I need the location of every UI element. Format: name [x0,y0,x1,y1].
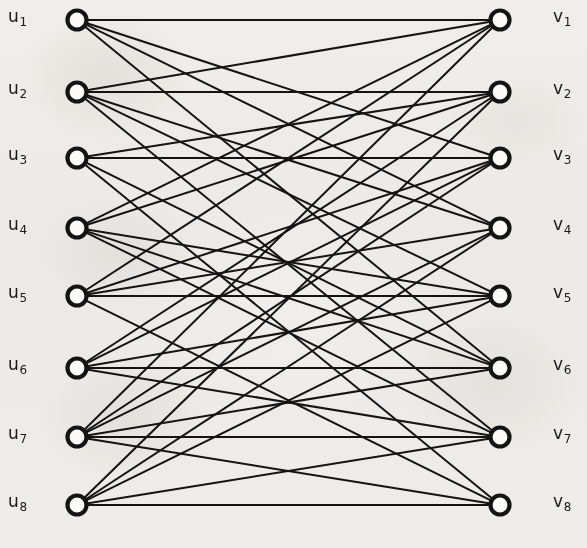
node-label-v5: v5 [553,284,572,304]
node-label-index: 2 [19,87,27,101]
node-label-u3: u3 [8,146,27,166]
node-label-index: 1 [19,15,27,29]
node-label-letter: u [8,214,19,234]
node-label-letter: v [553,423,563,443]
node-label-index: 4 [19,223,27,237]
graph-edge [87,98,491,362]
node-label-letter: v [553,214,563,234]
node-label-v4: v4 [553,216,572,236]
node-label-letter: u [8,282,19,302]
node-label-letter: v [553,144,563,164]
node-label-index: 5 [563,291,571,305]
node-label-letter: u [8,78,19,98]
graph-node-u1[interactable] [68,11,87,30]
node-label-index: 8 [563,500,571,514]
node-label-v8: v8 [553,493,572,513]
node-label-index: 4 [563,223,571,237]
graph-node-u2[interactable] [68,83,87,102]
node-label-v1: v1 [553,8,572,28]
node-label-letter: v [553,282,563,302]
graph-node-v8[interactable] [491,496,510,515]
node-label-u4: u4 [8,216,27,236]
node-label-u8: u8 [8,493,27,513]
node-label-v7: v7 [553,425,572,445]
edge-layer [85,20,492,505]
node-label-letter: v [553,491,563,511]
graph-node-u5[interactable] [68,287,87,306]
node-label-index: 5 [19,291,27,305]
node-label-letter: u [8,491,19,511]
graph-node-v4[interactable] [491,219,510,238]
node-label-index: 6 [563,363,571,377]
node-label-index: 6 [19,363,27,377]
node-label-letter: u [8,354,19,374]
node-label-letter: u [8,6,19,26]
node-label-index: 3 [563,153,571,167]
bipartite-graph [0,0,587,548]
graph-node-v1[interactable] [491,11,510,30]
graph-edge [88,162,489,293]
node-label-letter: u [8,144,19,164]
graph-node-u6[interactable] [68,359,87,378]
graph-node-u8[interactable] [68,496,87,515]
graph-node-v2[interactable] [491,83,510,102]
node-label-v6: v6 [553,356,572,376]
graph-node-u4[interactable] [68,219,87,238]
node-label-u6: u6 [8,356,27,376]
node-label-v2: v2 [553,80,572,100]
node-label-letter: v [553,78,563,98]
node-label-letter: v [553,6,563,26]
node-label-index: 2 [563,87,571,101]
node-label-index: 8 [19,500,27,514]
node-label-u1: u1 [8,8,27,28]
node-label-index: 7 [19,432,27,446]
node-label-letter: v [553,354,563,374]
graph-node-u7[interactable] [68,428,87,447]
graph-node-v5[interactable] [491,287,510,306]
node-label-v3: v3 [553,146,572,166]
node-label-u2: u2 [8,80,27,100]
node-label-letter: u [8,423,19,443]
node-label-index: 3 [19,153,27,167]
graph-node-v6[interactable] [491,359,510,378]
node-label-u7: u7 [8,425,27,445]
figure-canvas: u1u2u3u4u5u6u7u8v1v2v3v4v5v6v7v8 [0,0,587,548]
graph-node-v7[interactable] [491,428,510,447]
graph-node-u3[interactable] [68,149,87,168]
graph-node-v3[interactable] [491,149,510,168]
node-label-index: 1 [563,15,571,29]
node-label-u5: u5 [8,284,27,304]
node-label-index: 7 [563,432,571,446]
